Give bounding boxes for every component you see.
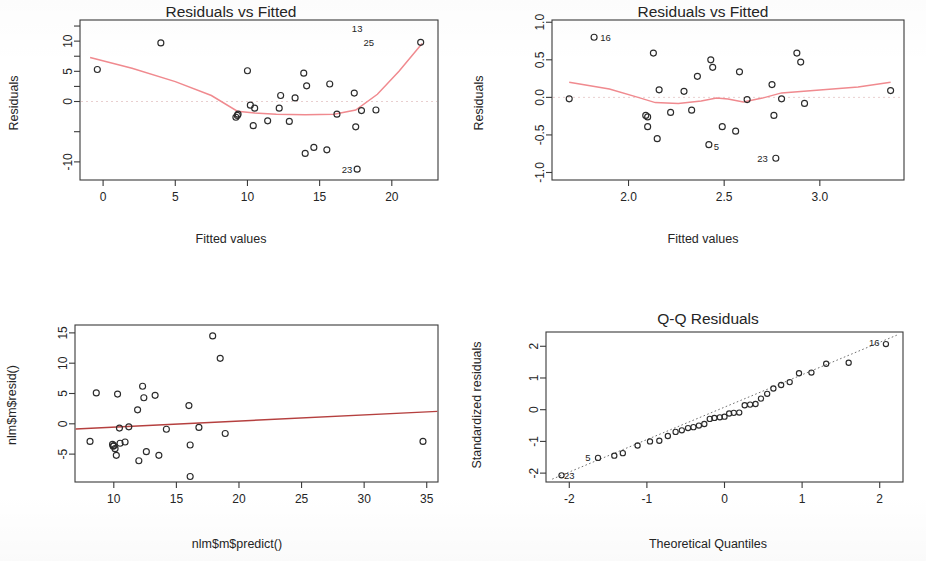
data-point xyxy=(301,70,307,76)
x-tick-label: -2 xyxy=(564,492,575,506)
y-tick-label: -1.0 xyxy=(533,162,547,183)
data-point xyxy=(324,147,330,153)
plot-area-rvp: 101520253035-5051015 xyxy=(56,325,438,506)
panel-residuals-vs-fitted-1: Residuals vs Fitted Fitted values Residu… xyxy=(0,0,463,280)
y-tick-label: 5 xyxy=(61,68,75,75)
data-point xyxy=(116,425,122,431)
x-axis-label: nlm$m$predict() xyxy=(192,537,282,551)
data-point xyxy=(710,64,716,70)
data-point xyxy=(186,403,192,409)
data-point xyxy=(210,333,216,339)
data-point xyxy=(665,433,670,438)
data-point xyxy=(765,391,770,396)
data-point xyxy=(679,428,684,433)
y-tick-label: 1 xyxy=(527,374,541,381)
data-point xyxy=(222,431,228,437)
data-point xyxy=(353,124,359,130)
data-point xyxy=(327,81,333,87)
plot-area-rvf2: 2.02.53.0-1.0-0.50.00.51.016523 xyxy=(533,14,904,204)
y-tick-label: -0.5 xyxy=(533,124,547,145)
data-point xyxy=(302,150,308,156)
x-tick-label: 25 xyxy=(295,492,309,506)
y-axis-label: nlm$m$resid() xyxy=(5,365,19,445)
plot-svg-qq: Q-Q Residuals Theoretical Quantiles Stan… xyxy=(463,280,926,561)
outlier-label: 5 xyxy=(714,141,719,152)
data-point xyxy=(247,102,253,108)
outlier-label: 5 xyxy=(585,452,590,463)
data-point xyxy=(771,112,777,118)
data-point xyxy=(802,100,808,106)
y-tick-label: -1 xyxy=(527,436,541,447)
data-point xyxy=(152,392,158,398)
data-point xyxy=(691,425,696,430)
data-point xyxy=(736,69,742,75)
data-point xyxy=(87,438,93,444)
data-point xyxy=(140,383,146,389)
data-point xyxy=(292,95,298,101)
data-point xyxy=(373,107,379,113)
data-point xyxy=(351,90,357,96)
plot-svg-rvf2: Residuals vs Fitted Fitted values Residu… xyxy=(463,0,926,280)
data-point xyxy=(158,40,164,46)
data-point xyxy=(650,50,656,56)
data-point xyxy=(420,438,426,444)
y-axis-label: Residuals xyxy=(7,76,21,131)
data-point xyxy=(824,361,829,366)
data-point xyxy=(769,82,775,88)
y-axis-label: Standardized residuals xyxy=(470,341,484,468)
data-point xyxy=(758,396,763,401)
panel-resid-vs-predict: nlm$m$predict() nlm$m$resid() 1015202530… xyxy=(0,280,463,560)
panel-residuals-vs-fitted-2: Residuals vs Fitted Fitted values Residu… xyxy=(463,0,926,280)
panel-title: Residuals vs Fitted xyxy=(166,3,297,20)
outlier-label: 23 xyxy=(342,164,353,175)
data-point xyxy=(706,142,712,148)
x-tick-label: 2.5 xyxy=(716,190,733,204)
outlier-label: 16 xyxy=(600,32,611,43)
x-tick-label: 1 xyxy=(799,492,806,506)
y-tick-label: 10 xyxy=(61,34,75,48)
data-point xyxy=(733,128,739,134)
data-point xyxy=(612,453,617,458)
x-axis-label: Theoretical Quantiles xyxy=(649,537,767,551)
y-tick-label: -2 xyxy=(527,467,541,478)
data-point xyxy=(645,124,651,130)
outlier-label: 23 xyxy=(564,470,575,481)
data-point xyxy=(156,452,162,458)
data-point xyxy=(196,424,202,430)
x-tick-label: 35 xyxy=(420,492,434,506)
data-point xyxy=(187,474,193,480)
x-tick-label: -1 xyxy=(642,492,653,506)
data-point xyxy=(566,96,572,102)
y-tick-label: 0 xyxy=(61,98,75,105)
data-point xyxy=(252,105,258,111)
data-point xyxy=(657,438,662,443)
panel-title: Residuals vs Fitted xyxy=(638,3,769,20)
plot-area-rvf1: 05101520-100510132523 xyxy=(61,20,438,204)
data-point xyxy=(115,391,121,397)
y-tick-label: 0.0 xyxy=(533,89,547,106)
data-point xyxy=(187,442,193,448)
outlier-label: 23 xyxy=(757,153,768,164)
data-point xyxy=(689,107,695,113)
outlier-label: 25 xyxy=(363,37,374,48)
data-point xyxy=(656,87,662,93)
data-point xyxy=(883,341,888,346)
x-axis-label: Fitted values xyxy=(668,232,739,246)
data-point xyxy=(286,118,292,124)
data-point xyxy=(136,458,142,464)
y-axis-label: Residuals xyxy=(472,76,486,131)
x-tick-label: 20 xyxy=(385,190,399,204)
data-point xyxy=(278,92,284,98)
x-axis-label: Fitted values xyxy=(196,232,267,246)
data-point xyxy=(354,166,360,172)
data-point xyxy=(595,455,600,460)
y-tick-label: 0 xyxy=(527,406,541,413)
x-tick-label: 0 xyxy=(100,190,107,204)
y-tick-label: 15 xyxy=(56,326,70,340)
data-point xyxy=(141,395,147,401)
data-point xyxy=(94,67,100,73)
data-point xyxy=(668,109,674,115)
x-tick-label: 3.0 xyxy=(811,190,828,204)
x-tick-label: 2 xyxy=(876,492,883,506)
y-tick-label: 10 xyxy=(56,356,70,370)
